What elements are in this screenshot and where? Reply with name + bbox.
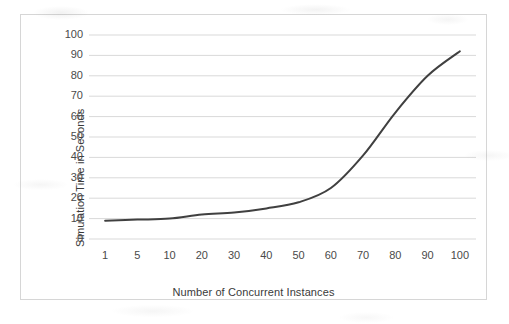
chart-frame: Simulation Time in Seconds Number of Con… [20, 14, 487, 300]
chart-series-group [105, 51, 460, 220]
series-line-simulation-time [105, 51, 460, 220]
chart-gridlines [89, 35, 476, 239]
line-chart-plot [21, 15, 488, 301]
